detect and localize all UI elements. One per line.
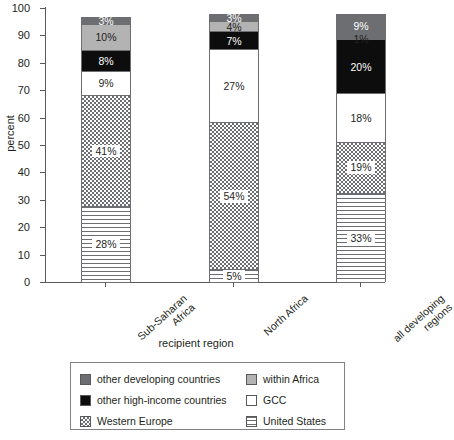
segment-gcc[interactable]: 27% bbox=[210, 49, 258, 123]
y-tick-mark bbox=[40, 63, 45, 64]
legend-label: other developing countries bbox=[97, 373, 220, 385]
legend-item[interactable]: GCC bbox=[246, 391, 344, 409]
segment-highincome[interactable]: 20% bbox=[337, 39, 385, 94]
y-tick-label: 80 bbox=[18, 57, 30, 68]
legend-item[interactable]: other high-income countries bbox=[80, 391, 240, 409]
y-axis-title: percent bbox=[5, 104, 16, 164]
segment-value-label: 19% bbox=[350, 162, 371, 173]
legend-swatch-westeurope bbox=[80, 416, 91, 427]
segment-value-label: 28% bbox=[95, 239, 116, 250]
bar-north-africa[interactable]: 3%4%7%27%54%5% bbox=[209, 14, 259, 282]
y-tick-label: 40 bbox=[18, 167, 30, 178]
bar-all-developing-regions[interactable]: 9%1%20%18%19%33% bbox=[336, 14, 386, 282]
plot-area: 3%10%8%9%41%28%3%4%7%27%54%5%9%1%20%18%1… bbox=[46, 8, 385, 282]
segment-us[interactable]: 5% bbox=[210, 269, 258, 283]
y-tick-mark bbox=[40, 255, 45, 256]
segment-value-label: 9% bbox=[353, 21, 368, 32]
segment-value-label: 33% bbox=[350, 233, 371, 244]
segment-value-label: 3% bbox=[98, 16, 113, 27]
legend-item[interactable]: United States bbox=[246, 412, 344, 430]
segment-value-label: 7% bbox=[226, 36, 241, 47]
y-tick-mark bbox=[40, 172, 45, 173]
x-tick-mark bbox=[360, 282, 361, 287]
y-tick-label: 60 bbox=[18, 112, 30, 123]
legend-swatch-withinafrica bbox=[246, 374, 257, 385]
y-tick-label: 90 bbox=[18, 30, 30, 41]
y-tick-mark bbox=[40, 35, 45, 36]
legend-label: within Africa bbox=[263, 373, 319, 385]
x-tick-mark bbox=[233, 282, 234, 287]
segment-highincome[interactable]: 7% bbox=[210, 31, 258, 50]
segment-value-label: 18% bbox=[350, 113, 371, 124]
legend-item[interactable]: other developing countries bbox=[80, 370, 240, 388]
y-tick-label: 70 bbox=[18, 85, 30, 96]
segment-value-label: 10% bbox=[95, 32, 116, 43]
y-tick-mark bbox=[40, 118, 45, 119]
legend-swatch-us bbox=[246, 416, 257, 427]
segment-value-label: 20% bbox=[350, 62, 371, 73]
x-category-label-line: North Africa bbox=[261, 292, 310, 338]
legend-item[interactable]: Western Europe bbox=[80, 412, 240, 430]
segment-gcc[interactable]: 9% bbox=[82, 71, 130, 96]
legend-swatch-highincome bbox=[80, 395, 91, 406]
x-category-label: all developingregions bbox=[390, 292, 454, 353]
y-tick-mark bbox=[40, 282, 45, 283]
segment-value-label: 41% bbox=[95, 146, 116, 157]
y-tick-mark bbox=[40, 90, 45, 91]
segment-value-label: 1% bbox=[353, 34, 368, 45]
legend-label: United States bbox=[263, 415, 326, 427]
segment-gcc[interactable]: 18% bbox=[337, 93, 385, 142]
y-tick-label: 30 bbox=[18, 194, 30, 205]
segment-westeurope[interactable]: 41% bbox=[82, 95, 130, 207]
legend: other developing countriesother high-inc… bbox=[70, 362, 345, 430]
segment-withinafrica[interactable]: 10% bbox=[82, 24, 130, 51]
segment-us[interactable]: 33% bbox=[337, 193, 385, 283]
segment-value-label: 54% bbox=[223, 191, 244, 202]
y-tick-label: 0 bbox=[24, 277, 30, 288]
legend-column-right: within AfricaGCCUnited States bbox=[246, 370, 344, 433]
segment-value-label: 5% bbox=[226, 271, 241, 282]
x-axis-title: recipient region bbox=[0, 338, 392, 349]
segment-value-label: 4% bbox=[226, 22, 241, 33]
y-tick-mark bbox=[40, 8, 45, 9]
segment-westeurope[interactable]: 19% bbox=[337, 142, 385, 194]
legend-label: Western Europe bbox=[97, 415, 173, 427]
segment-highincome[interactable]: 8% bbox=[82, 50, 130, 72]
y-tick-label: 100 bbox=[12, 3, 30, 14]
y-tick-mark bbox=[40, 200, 45, 201]
segment-value-label: 27% bbox=[223, 81, 244, 92]
x-category-label: North Africa bbox=[261, 292, 310, 338]
y-tick-label: 20 bbox=[18, 222, 30, 233]
legend-swatch-gcc bbox=[246, 395, 257, 406]
legend-label: other high-income countries bbox=[97, 394, 227, 406]
segment-westeurope[interactable]: 54% bbox=[210, 122, 258, 270]
legend-label: GCC bbox=[263, 394, 286, 406]
segment-us[interactable]: 28% bbox=[82, 206, 130, 283]
legend-swatch-otherdev bbox=[80, 374, 91, 385]
y-tick-label: 10 bbox=[18, 249, 30, 260]
x-tick-mark bbox=[105, 282, 106, 287]
bar-sub-saharan-africa[interactable]: 3%10%8%9%41%28% bbox=[81, 17, 131, 282]
legend-item[interactable]: within Africa bbox=[246, 370, 344, 388]
y-tick-mark bbox=[40, 227, 45, 228]
legend-column-left: other developing countriesother high-inc… bbox=[80, 370, 240, 433]
y-tick-mark bbox=[40, 145, 45, 146]
y-tick-label: 50 bbox=[18, 140, 30, 151]
segment-value-label: 9% bbox=[98, 78, 113, 89]
segment-value-label: 8% bbox=[98, 56, 113, 67]
